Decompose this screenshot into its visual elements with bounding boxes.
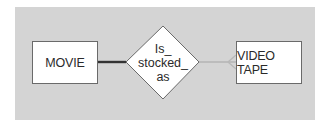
relationship-label-line-1: Is_: [128, 42, 198, 56]
relationship-label-line-2: stocked_: [128, 56, 198, 70]
entity-video-tape-label: VIDEO TAPE: [237, 49, 301, 77]
relationship-label-line-3: as: [128, 70, 198, 84]
entity-video-tape: VIDEO TAPE: [236, 41, 302, 84]
relationship-label: Is_ stocked_ as: [128, 42, 198, 84]
entity-movie-label: MOVIE: [45, 56, 84, 70]
entity-movie: MOVIE: [32, 41, 98, 84]
